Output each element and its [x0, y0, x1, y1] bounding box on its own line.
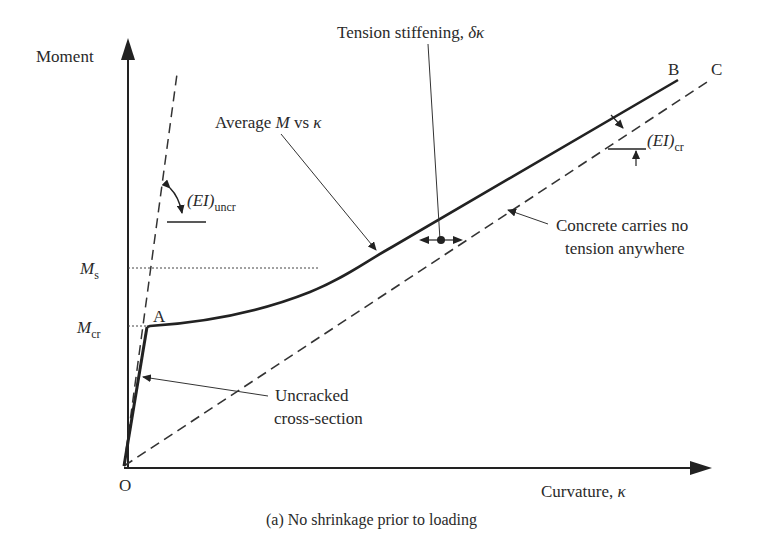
moment-curvature-diagram: Moment Curvature, κ O Ms Mcr A B C (EI)u… — [0, 0, 759, 560]
curved-arrow-icon — [170, 188, 182, 213]
tension-stiffening-pointer — [428, 44, 440, 240]
tension-stiffening-label: Tension stiffening, δκ — [337, 23, 485, 42]
figure-caption: (a) No shrinkage prior to loading — [266, 511, 477, 529]
mcr-tick-label: Mcr — [76, 318, 101, 341]
ei-cr-label: (EI)cr — [647, 131, 684, 154]
uncracked-stiffness-dashed-line — [124, 74, 177, 466]
average-curve-pointer — [281, 134, 376, 250]
no-tension-label-line2: tension anywhere — [565, 239, 684, 258]
ms-tick-label: Ms — [79, 259, 99, 282]
uncracked-label-line2: cross-section — [274, 409, 363, 428]
no-tension-pointer — [508, 210, 548, 224]
average-curve-label: Average M vs κ — [215, 113, 322, 132]
y-axis-label: Moment — [36, 47, 94, 66]
no-tension-dashed-line — [124, 82, 707, 466]
x-axis — [124, 461, 712, 475]
point-B-label: B — [668, 60, 679, 79]
x-axis-label: Curvature, κ — [541, 482, 626, 501]
point-A-label: A — [153, 307, 166, 326]
uncracked-pointer — [143, 377, 268, 396]
origin-label: O — [119, 476, 131, 495]
ei-uncr-annotation: (EI)uncr — [167, 188, 236, 222]
point-C-label: C — [711, 60, 722, 79]
y-axis-arrow-icon — [121, 38, 135, 60]
uncracked-label-line1: Uncracked — [275, 386, 349, 405]
delta-kappa-marker — [419, 236, 463, 244]
left-arrowhead-icon — [419, 236, 429, 244]
ei-uncr-label: (EI)uncr — [187, 191, 236, 214]
x-axis-arrow-icon — [690, 461, 712, 475]
no-tension-label-line1: Concrete carries no — [556, 216, 688, 235]
